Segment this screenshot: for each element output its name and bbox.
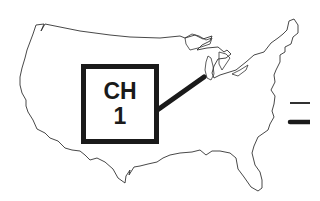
us-outline xyxy=(20,19,298,191)
callout-box: CH 1 xyxy=(81,64,159,144)
lake-huron xyxy=(219,52,230,70)
callout-label-line2: 1 xyxy=(114,104,127,129)
callout-label-line1: CH xyxy=(103,79,136,104)
callout-pointer xyxy=(156,77,204,111)
